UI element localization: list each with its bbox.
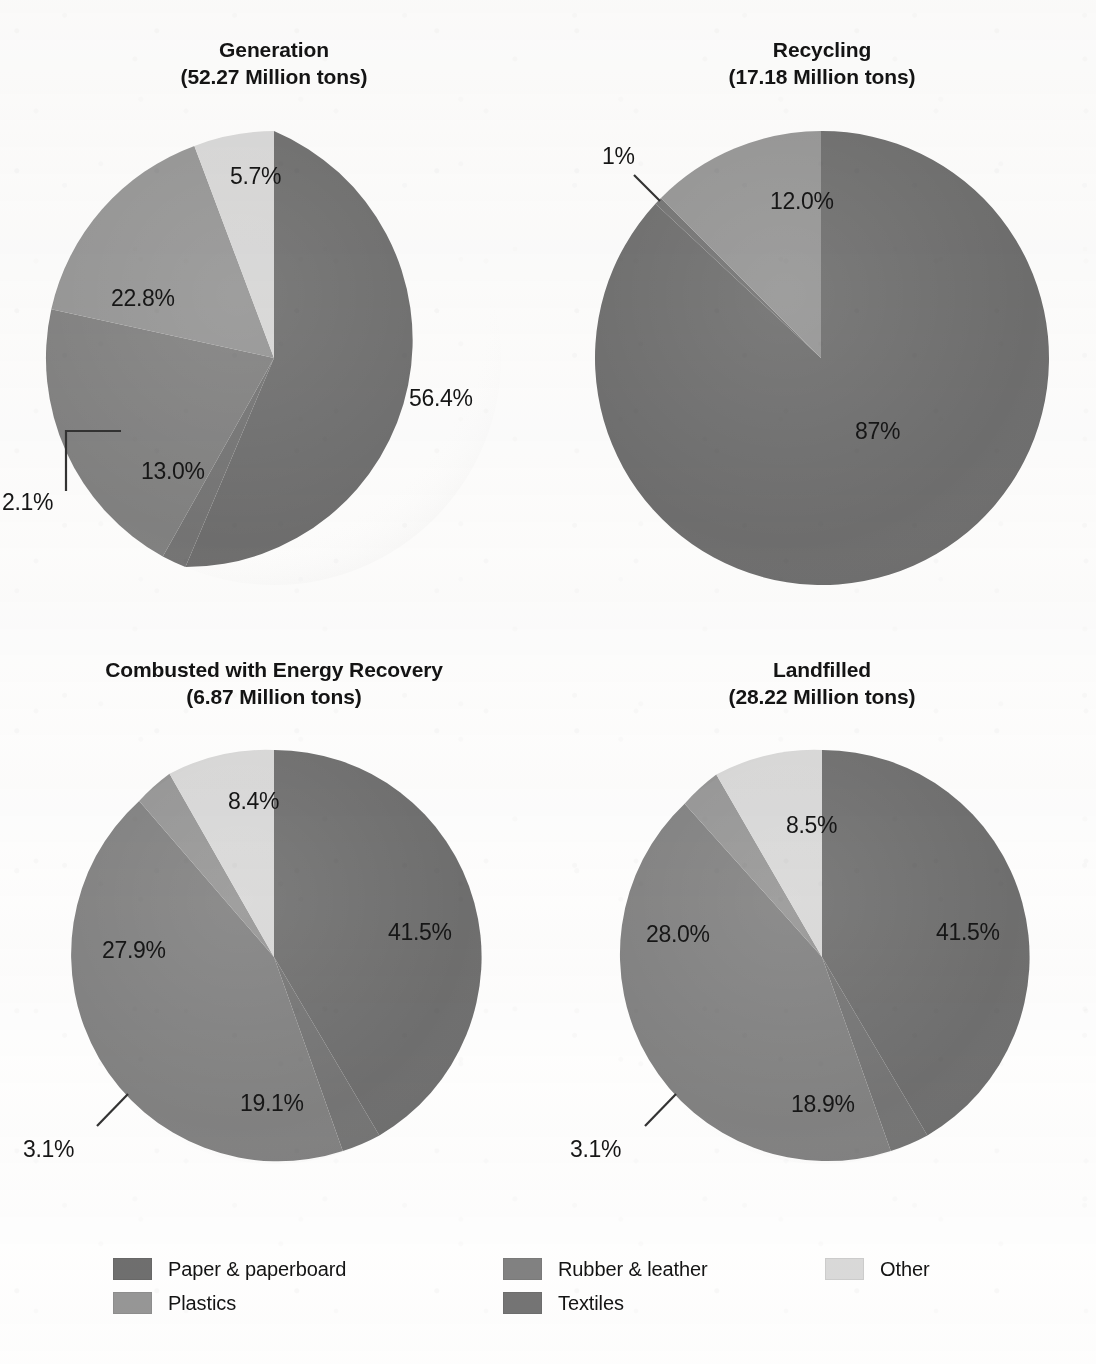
legend-swatch-textiles	[503, 1292, 542, 1314]
legend-swatch-other	[825, 1258, 864, 1280]
panel-landfilled-title-main: Landfilled	[773, 658, 871, 681]
label-landfilled-plastics: 28.0%	[646, 921, 710, 948]
chart-legend: Paper & paperboardPlasticsRubber & leath…	[113, 1252, 1013, 1327]
legend-label-textiles: Textiles	[558, 1292, 624, 1315]
panel-combusted-title: Combusted with Energy Recovery (6.87 Mil…	[0, 656, 548, 710]
legend-label-rubber-leather: Rubber & leather	[558, 1258, 708, 1281]
legend-column-2: Other	[825, 1252, 930, 1286]
panel-generation-title-main: Generation	[219, 38, 329, 61]
panel-generation-title: Generation (52.27 Million tons)	[0, 36, 548, 90]
panel-recycling-title-sub: (17.18 Million tons)	[548, 63, 1096, 90]
legend-column-0: Paper & paperboardPlastics	[113, 1252, 346, 1320]
leader-line-textiles	[645, 1094, 676, 1126]
label-recycling-paper: 87%	[855, 418, 900, 445]
panel-generation-title-sub: (52.27 Million tons)	[0, 63, 548, 90]
pie-recycling	[576, 113, 1066, 603]
legend-swatch-plastics	[113, 1292, 152, 1314]
legend-swatch-rubber-leather	[503, 1258, 542, 1280]
legend-label-other: Other	[880, 1258, 930, 1281]
panel-generation: Generation (52.27 Million tons)	[0, 30, 548, 650]
legend-label-paper-paperboard: Paper & paperboard	[168, 1258, 346, 1281]
legend-label-plastics: Plastics	[168, 1292, 236, 1315]
clipped-figure-title	[0, 0, 1096, 2]
legend-item-other[interactable]: Other	[825, 1252, 930, 1286]
label-combusted-plastics: 27.9%	[102, 937, 166, 964]
label-generation-plastics: 22.8%	[111, 285, 175, 312]
legend-item-plastics[interactable]: Plastics	[113, 1286, 346, 1320]
legend-item-rubber-leather[interactable]: Rubber & leather	[503, 1252, 708, 1286]
label-recycling-textiles: 1%	[602, 143, 635, 170]
label-combusted-rubber: 19.1%	[240, 1090, 304, 1117]
leader-line-textiles	[97, 1094, 128, 1126]
pie-recycling-svg	[576, 113, 1066, 603]
label-generation-rubber: 13.0%	[141, 458, 205, 485]
label-combusted-other: 8.4%	[228, 788, 279, 815]
label-recycling-plastics: 12.0%	[770, 188, 834, 215]
pie-shading	[47, 131, 501, 585]
legend-item-paper-paperboard[interactable]: Paper & paperboard	[113, 1252, 346, 1286]
label-combusted-paper: 41.5%	[388, 919, 452, 946]
legend-column-1: Rubber & leatherTextiles	[503, 1252, 708, 1320]
label-generation-other: 5.7%	[230, 163, 281, 190]
panel-landfilled-title: Landfilled (28.22 Million tons)	[548, 656, 1096, 710]
panel-landfilled-title-sub: (28.22 Million tons)	[548, 683, 1096, 710]
panel-combusted-title-main: Combusted with Energy Recovery	[105, 658, 443, 681]
panel-recycling-title-main: Recycling	[773, 38, 871, 61]
label-generation-paper: 56.4%	[409, 385, 473, 412]
leader-line-textiles	[634, 175, 660, 201]
legend-swatch-paper-paperboard	[113, 1258, 152, 1280]
panel-recycling-title: Recycling (17.18 Million tons)	[548, 36, 1096, 90]
panel-recycling: Recycling (17.18 Million tons) 87% 1% 12…	[548, 30, 1096, 650]
label-landfilled-paper: 41.5%	[936, 919, 1000, 946]
panel-combusted: Combusted with Energy Recovery (6.87 Mil…	[0, 650, 548, 1250]
label-landfilled-textiles: 3.1%	[570, 1136, 621, 1163]
legend-item-textiles[interactable]: Textiles	[503, 1286, 708, 1320]
label-combusted-textiles: 3.1%	[23, 1136, 74, 1163]
label-generation-textiles: 2.1%	[2, 489, 53, 516]
label-landfilled-other: 8.5%	[786, 812, 837, 839]
label-landfilled-rubber: 18.9%	[791, 1091, 855, 1118]
panel-landfilled: Landfilled (28.22 Million tons)	[548, 650, 1096, 1250]
panel-combusted-title-sub: (6.87 Million tons)	[0, 683, 548, 710]
